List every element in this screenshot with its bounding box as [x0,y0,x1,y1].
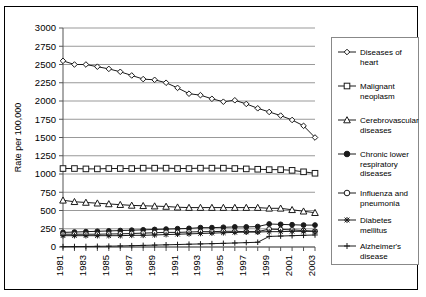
data-point-marker [290,222,295,227]
x-tick-label: 1983 [77,255,88,276]
data-point-marker [129,233,135,239]
data-point-marker [152,165,158,171]
data-point-marker [255,166,261,172]
x-tick-label: 1997 [237,255,248,276]
chart-frame: 0250500750100012501500175020002250250027… [4,6,418,290]
data-point-marker [95,233,101,239]
legend-item-1[interactable]: Diseases ofheart [338,48,403,66]
data-point-marker [175,85,181,91]
data-point-marker [175,166,181,172]
x-tick-label: 1999 [260,255,271,276]
data-point-marker [72,233,78,239]
legend-label: Diabetes [360,216,392,225]
data-point-marker [344,151,350,157]
data-point-marker [106,166,112,172]
data-point-marker [232,230,238,236]
y-tick-label: 2000 [35,95,56,106]
x-tick-label: 2001 [283,255,294,276]
data-point-marker [163,232,169,238]
data-point-marker [301,169,307,175]
data-point-marker [312,170,318,176]
data-point-marker [278,113,284,119]
data-point-marker [209,165,215,171]
legend-label: Influenza and [360,189,408,198]
x-tick-label: 1981 [54,255,65,276]
data-point-marker [198,165,204,171]
legend-label: Diseases of [360,48,403,57]
data-point-marker [106,233,112,239]
legend-item-2[interactable]: Malignantneoplasm [338,82,395,101]
y-tick-label: 3000 [35,22,56,33]
data-point-marker [243,229,249,235]
data-point-marker [344,243,350,249]
data-point-marker [186,241,192,247]
y-tick-label: 1500 [35,132,56,143]
y-axis-title: Rate per 100,000 [13,103,23,173]
series-3 [60,197,319,216]
data-point-marker [266,167,272,173]
y-tick-label: 2250 [35,77,56,88]
data-point-marker [106,243,112,249]
legend-item-6[interactable]: Diabetesmellitus [338,216,392,235]
data-point-marker [243,240,249,246]
legend-label: disease [360,252,388,261]
y-tick-label: 2750 [35,41,56,52]
data-point-marker [83,166,89,172]
legend-label: diseases [360,169,392,178]
data-point-marker [163,80,169,86]
data-point-marker [175,242,181,248]
data-point-marker [221,230,227,236]
data-point-marker [243,101,249,107]
data-point-marker [198,92,204,98]
data-point-marker [60,58,66,64]
legend-item-3[interactable]: Cerebrovasculardiseases [338,116,419,135]
data-point-marker [140,76,146,82]
data-point-marker [313,223,318,228]
data-point-marker [301,223,306,228]
legend-label: Chronic lower [360,150,409,159]
data-point-marker [278,222,283,227]
data-point-marker [209,241,215,247]
data-point-marker [221,241,227,247]
x-tick-label: 1995 [214,255,225,276]
data-point-marker [344,49,350,55]
x-tick-label: 1987 [123,255,134,276]
data-point-marker [72,62,78,68]
data-point-marker [198,231,204,237]
legend-label: Alzheimer's [360,242,401,251]
data-point-marker [278,167,284,173]
data-point-marker [344,190,350,196]
data-point-marker [163,165,169,171]
legend-item-7[interactable]: Alzheimer'sdisease [338,242,401,261]
series-1 [60,58,318,140]
data-point-marker [95,166,101,172]
data-point-marker [72,244,78,250]
data-point-marker [152,232,158,238]
data-point-marker [344,217,350,223]
data-point-marker [83,62,89,68]
data-point-marker [129,243,135,249]
data-point-marker [289,168,295,174]
data-point-marker [244,225,249,230]
data-point-marker [232,240,238,246]
data-point-marker [60,233,66,239]
data-point-marker [221,99,227,105]
y-tick-label: 750 [40,187,56,198]
y-tick-label: 2500 [35,59,56,70]
data-point-marker [255,106,261,112]
legend-label: diseases [360,126,392,135]
legend-item-5[interactable]: Influenza andpneumonia [338,189,408,208]
legend-label: neoplasm [360,92,395,101]
legend-item-4[interactable]: Chronic lowerrespiratorydiseases [338,150,409,178]
data-point-marker [186,91,192,97]
data-point-marker [140,165,146,171]
data-point-marker [289,117,295,123]
data-point-marker [129,73,135,79]
data-point-marker [140,233,146,239]
data-point-marker [117,69,123,75]
data-point-marker [232,166,238,172]
data-point-marker [243,166,249,172]
legend-label: pneumonia [360,199,400,208]
data-point-marker [175,231,181,237]
y-tick-label: 0 [51,241,56,252]
